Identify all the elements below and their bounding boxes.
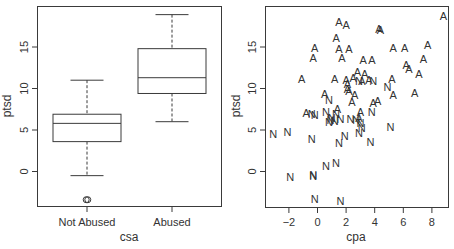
- x-tick-label: 4: [372, 216, 378, 228]
- scatter-point-n: N: [322, 160, 330, 172]
- x-tick-label: Not Abused: [59, 216, 116, 228]
- scatter-point-a: A: [298, 73, 306, 85]
- scatter-point-n: N: [332, 108, 340, 120]
- scatter-y-axis: 051015: [246, 41, 266, 175]
- scatter-point-a: A: [331, 73, 339, 85]
- box-not-abused: [53, 80, 121, 203]
- y-tick-label: 10: [246, 82, 258, 94]
- scatter-panel: 051015 −202468 AAAAAAAAAAAAAAAAAAAAAAAAA…: [229, 7, 449, 245]
- scatter-point-a: A: [332, 32, 340, 44]
- scatter-point-a: A: [390, 42, 398, 54]
- scatter-point-a: A: [440, 10, 448, 22]
- scatter-point-a: A: [401, 42, 409, 54]
- scatter-point-n: N: [332, 157, 340, 169]
- y-tick-label: 10: [18, 82, 30, 94]
- scatter-point-n: N: [311, 109, 319, 121]
- scatter-point-n: N: [325, 94, 333, 106]
- scatter-point-n: N: [311, 193, 319, 205]
- scatter-point-a: A: [415, 68, 423, 80]
- box-abused: [138, 15, 206, 122]
- boxplot-y-axis: 051015: [18, 41, 38, 175]
- scatter-point-a: A: [345, 43, 353, 55]
- scatter-point-n: N: [325, 116, 333, 128]
- x-tick-label: −2: [283, 216, 296, 228]
- boxplot-x-axis: Not AbusedAbused: [59, 207, 191, 229]
- scatter-point-a: A: [420, 53, 428, 65]
- scatter-x-axis-title: cpa: [346, 230, 366, 244]
- y-tick-label: 15: [18, 41, 30, 53]
- chart-canvas: 051015 Not AbusedAbused ptsd csa 051015 …: [0, 0, 454, 249]
- scatter-point-n: N: [369, 75, 377, 87]
- scatter-point-n: N: [308, 133, 316, 145]
- x-tick-label: 2: [343, 216, 349, 228]
- scatter-point-n: N: [309, 169, 317, 181]
- scatter-x-axis: −202468: [283, 208, 435, 229]
- scatter-point-n: N: [336, 195, 344, 207]
- y-tick-label: 0: [18, 168, 30, 174]
- scatter-point-n: N: [355, 75, 363, 87]
- scatter-point-a: A: [360, 54, 368, 66]
- scatter-point-n: N: [286, 171, 294, 183]
- scatter-point-n: N: [386, 121, 394, 133]
- scatter-point-n: N: [269, 128, 277, 140]
- scatter-point-a: A: [338, 52, 346, 64]
- y-tick-label: 5: [246, 127, 258, 133]
- y-tick-label: 0: [246, 168, 258, 174]
- scatter-point-n: N: [366, 136, 374, 148]
- scatter-point-a: A: [342, 19, 350, 31]
- scatter-point-a: A: [411, 87, 419, 99]
- x-tick-label: 0: [314, 216, 320, 228]
- boxplot-boxes: [53, 15, 206, 203]
- scatter-point-a: A: [368, 54, 376, 66]
- scatter-point-a: A: [424, 39, 432, 51]
- y-tick-label: 5: [18, 127, 30, 133]
- scatter-point-a: A: [377, 24, 385, 36]
- x-tick-label: 6: [400, 216, 406, 228]
- scatter-point-n: N: [283, 126, 291, 138]
- x-tick-label: Abused: [153, 216, 190, 228]
- scatter-y-axis-title: ptsd: [229, 95, 243, 118]
- scatter-point-n: N: [358, 122, 366, 134]
- boxplot-panel: 051015 Not AbusedAbused ptsd csa: [0, 7, 222, 245]
- boxplot-frame: [38, 7, 222, 207]
- y-tick-label: 15: [246, 41, 258, 53]
- scatter-point-a: A: [405, 63, 413, 75]
- scatter-point-n: N: [341, 130, 349, 142]
- x-tick-label: 8: [429, 216, 435, 228]
- boxplot-x-axis-title: csa: [120, 230, 139, 244]
- scatter-point-n: N: [384, 81, 392, 93]
- scatter-point-a: A: [348, 96, 356, 108]
- scatter-point-a: A: [310, 52, 318, 64]
- boxplot-y-axis-title: ptsd: [0, 95, 14, 118]
- scatter-points: AAAAAAAAAAAAAAAAAAAAAAAAAAAAAAAAAAAAAAAA…: [269, 10, 447, 206]
- scatter-point-n: N: [368, 106, 376, 118]
